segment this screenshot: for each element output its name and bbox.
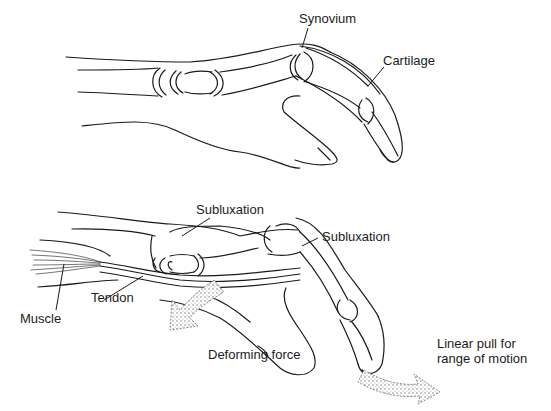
label-synovium: Synovium (299, 12, 356, 26)
label-linear-pull-line2: range of motion (437, 352, 527, 366)
linear-pull-arrow (358, 370, 440, 404)
label-muscle: Muscle (20, 312, 61, 326)
label-subluxation-mcp: Subluxation (196, 203, 264, 217)
label-subluxation-pip: Subluxation (322, 230, 390, 244)
label-tendon: Tendon (91, 291, 134, 305)
label-linear-pull-line1: Linear pull for (437, 337, 516, 351)
label-cartilage: Cartilage (383, 54, 435, 68)
normal-hand-illustration (66, 44, 402, 168)
label-leaders-top (302, 28, 384, 86)
label-deforming-force: Deforming force (208, 348, 300, 362)
